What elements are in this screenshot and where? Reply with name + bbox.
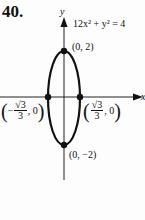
left-point-denominator: 3 (18, 111, 23, 121)
y-axis-label: y (60, 6, 64, 17)
x-axis-label: x (141, 91, 145, 102)
y-axis-arrow-icon (61, 17, 68, 27)
right-point-label: ( √3 3 , 0 ) (83, 100, 121, 121)
right-point-denominator: 3 (94, 111, 99, 121)
equation-label: 12x² + y² = 4 (73, 18, 125, 29)
left-point-label: ( − √3 3 , 0 ) (1, 100, 44, 121)
point-left (45, 94, 51, 100)
point-bottom (61, 142, 67, 148)
top-point-label: (0, 2) (72, 41, 94, 52)
bottom-point-label: (0, −2) (69, 149, 96, 160)
point-top (61, 48, 67, 54)
